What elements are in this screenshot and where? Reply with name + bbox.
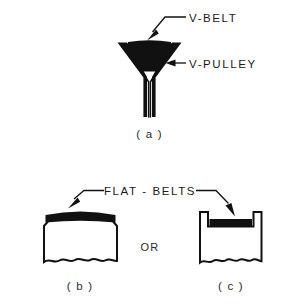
caption-c: ( c ) (218, 280, 244, 292)
panel-c-flanged-pulley-assembly: ( c ) (196, 191, 262, 293)
caption-a: ( a ) (136, 128, 162, 140)
flat-belt-flanged (210, 219, 253, 227)
caption-b: ( b ) (67, 280, 93, 292)
flat-belts-arrowhead-c (226, 203, 236, 217)
flat-belt-crowned (46, 212, 116, 223)
belt-pulley-figure: V-BELT V-PULLEY ( a ) ( b ) OR (0, 0, 299, 308)
v-belt-top-edge (128, 40, 171, 44)
or-label: OR (141, 241, 160, 253)
flat-belts-leader-line-b (74, 191, 104, 200)
v-belt-leader-line (153, 17, 187, 32)
v-pulley-label: V-PULLEY (189, 58, 257, 70)
flat-belts-arrowhead-b (68, 198, 80, 209)
panel-a-v-pulley-assembly: V-BELT V-PULLEY ( a ) (118, 12, 257, 141)
crowned-pulley-body (44, 216, 117, 263)
figure-canvas: V-BELT V-PULLEY ( a ) ( b ) OR (0, 0, 299, 308)
panel-b-crowned-pulley-assembly: ( b ) (44, 191, 117, 293)
flat-belts-label: FLAT - BELTS (104, 185, 196, 197)
v-belt-label: V-BELT (189, 12, 237, 24)
flat-belts-leader-line-c (196, 191, 229, 204)
